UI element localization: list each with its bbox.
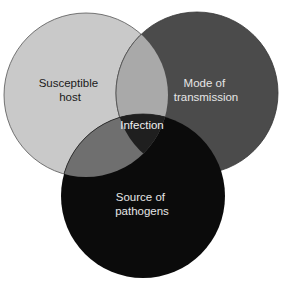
venn-diagram: Susceptible host Mode of transmission So… (0, 0, 286, 286)
label-infection: Infection (120, 119, 163, 131)
